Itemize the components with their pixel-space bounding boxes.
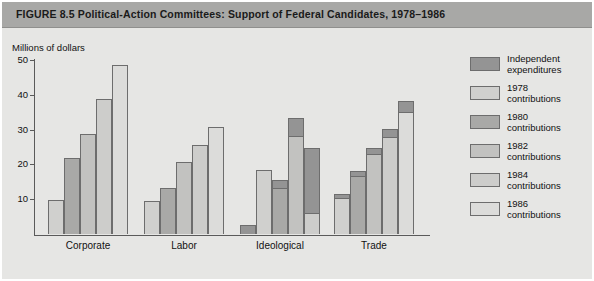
bar-1978-contributions — [334, 194, 350, 234]
legend-label: 1986 contributions — [507, 199, 561, 220]
legend-swatch — [470, 115, 500, 129]
chart-legend: Independent expenditures1978 contributio… — [470, 56, 588, 230]
bar-1984-contributions — [96, 99, 112, 234]
bar-1984-contributions — [192, 145, 208, 234]
x-axis-label-labor: Labor — [130, 240, 238, 251]
legend-item[interactable]: 1978 contributions — [470, 85, 588, 114]
plot-area — [34, 60, 428, 234]
bar-cap-independent-expenditures — [382, 129, 398, 138]
bar-cap-independent-expenditures — [288, 118, 304, 137]
y-tick-label: 30 — [8, 124, 28, 135]
legend-swatch — [470, 173, 500, 187]
bar-cap-independent-expenditures — [334, 194, 350, 199]
title-banner: FIGURE 8.5 Political-Action Committees: … — [2, 2, 592, 28]
legend-label: 1982 contributions — [507, 141, 561, 162]
legend-label: Independent expenditures — [507, 54, 561, 75]
legend-item[interactable]: 1982 contributions — [470, 143, 588, 172]
bar-1980-contributions — [272, 180, 288, 234]
bar-1986-contributions — [208, 127, 224, 234]
legend-label: 1978 contributions — [507, 83, 561, 104]
y-tick-label: 20 — [8, 158, 28, 169]
legend-swatch — [470, 202, 500, 216]
bar-1982-contributions — [288, 118, 304, 234]
bar-1978-contributions — [144, 201, 160, 234]
x-axis-line — [34, 235, 430, 236]
y-tick-label: 10 — [8, 193, 28, 204]
bar-cap-independent-expenditures — [272, 180, 288, 189]
legend-item[interactable]: Independent expenditures — [470, 56, 588, 85]
bar-independent-expenditures — [240, 225, 256, 234]
legend-swatch — [470, 86, 500, 100]
x-axis-label-ideological: Ideological — [226, 240, 334, 251]
figure-container: FIGURE 8.5 Political-Action Committees: … — [0, 0, 594, 281]
legend-item[interactable]: 1984 contributions — [470, 172, 588, 201]
bar-1986-contributions — [112, 65, 128, 234]
bar-1980-contributions — [64, 158, 80, 234]
y-tick-label: 50 — [8, 54, 28, 65]
bar-1982-contributions — [366, 148, 382, 234]
legend-label: 1980 contributions — [507, 112, 561, 133]
x-axis-label-corporate: Corporate — [34, 240, 142, 251]
legend-swatch — [470, 57, 500, 71]
bar-cap-independent-expenditures — [304, 148, 320, 213]
legend-item[interactable]: 1980 contributions — [470, 114, 588, 143]
bar-1978-contributions — [256, 170, 272, 234]
bar-cap-independent-expenditures — [398, 101, 414, 113]
bar-1978-contributions — [48, 200, 64, 234]
bar-1986-contributions — [398, 101, 414, 234]
figure-title: FIGURE 8.5 Political-Action Committees: … — [16, 8, 445, 20]
bar-1982-contributions — [176, 162, 192, 234]
bar-1980-contributions — [160, 188, 176, 234]
bar-cap-independent-expenditures — [366, 148, 382, 156]
y-tick-label: 40 — [8, 89, 28, 100]
legend-swatch — [470, 144, 500, 158]
legend-item[interactable]: 1986 contributions — [470, 201, 588, 230]
bar-1982-contributions — [80, 134, 96, 234]
legend-label: 1984 contributions — [507, 170, 561, 191]
bar-1980-contributions — [350, 171, 366, 234]
x-axis-label-trade: Trade — [320, 240, 428, 251]
bar-1984-contributions — [382, 129, 398, 234]
y-axis-label: Millions of dollars — [12, 42, 85, 53]
bar-1984-contributions — [304, 148, 320, 234]
bar-cap-independent-expenditures — [350, 171, 366, 177]
